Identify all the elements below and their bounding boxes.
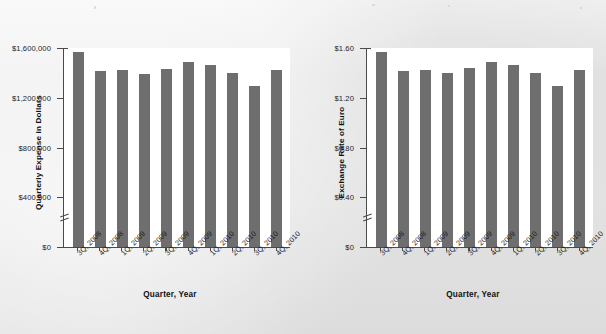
y-tick-mark [360, 247, 366, 248]
bar [464, 68, 475, 247]
bar [271, 70, 282, 247]
quarterly-expense-chart: $1,600,000 $1,200,000 $800,000 $400,000 … [0, 0, 303, 334]
y-axis-title: Quarterly Expense in Dollars [34, 53, 43, 253]
y-tick-mark [57, 148, 63, 149]
y-tick-mark [360, 48, 366, 49]
y-tick-label: $0 [345, 242, 354, 251]
y-tick-label: $1,200,000 [12, 93, 51, 102]
y-axis-top-cap [63, 48, 68, 49]
bar [249, 86, 260, 247]
x-axis-title: Quarter, Year [348, 290, 598, 299]
y-tick-mark [57, 197, 63, 198]
plot-wrapper: $1.60 $1.20 $0.80 $0.40 $0 Exchange Rate… [303, 0, 606, 334]
y-tick-mark [57, 98, 63, 99]
plot-wrapper: $1,600,000 $1,200,000 $800,000 $400,000 … [0, 0, 303, 334]
bar [227, 73, 238, 247]
bar [420, 70, 431, 247]
y-tick-mark [360, 197, 366, 198]
y-axis-title: Exchange Rate of Euro [337, 53, 346, 253]
plot-area [63, 48, 290, 247]
axis-break-icon [60, 213, 68, 222]
y-tick-label: $0 [42, 242, 51, 251]
plot-area [366, 48, 593, 247]
bar [552, 86, 563, 247]
bar [376, 52, 387, 247]
x-axis-title: Quarter, Year [45, 290, 295, 299]
y-tick-mark [360, 98, 366, 99]
bar [508, 65, 519, 247]
bar [73, 52, 84, 247]
y-tick-mark [360, 148, 366, 149]
bar [530, 73, 541, 247]
bar [574, 70, 585, 247]
exchange-rate-chart: $1.60 $1.20 $0.80 $0.40 $0 Exchange Rate… [303, 0, 606, 334]
bar [486, 62, 497, 247]
y-axis-top-cap [366, 48, 371, 49]
bar-series [367, 48, 593, 247]
bar [442, 73, 453, 247]
y-tick-label: $1.60 [334, 44, 354, 53]
bar-series [64, 48, 290, 247]
axis-break-icon [363, 213, 371, 222]
bar [117, 70, 128, 247]
bar [139, 74, 150, 247]
bar [398, 71, 409, 247]
bar [205, 65, 216, 247]
y-tick-label: $1,600,000 [12, 44, 51, 53]
bar [183, 62, 194, 247]
y-tick-mark [57, 247, 63, 248]
bar [161, 69, 172, 247]
y-tick-mark [57, 48, 63, 49]
bar [95, 71, 106, 247]
